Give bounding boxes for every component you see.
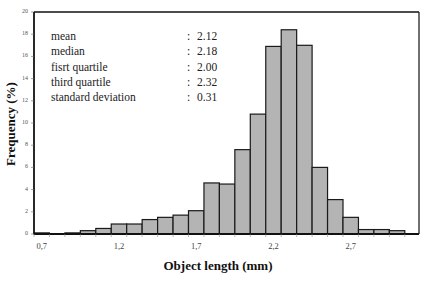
- y-tick-label: 12: [14, 97, 28, 103]
- x-axis-label: Object length (mm): [0, 258, 426, 274]
- histogram-bar: [312, 167, 327, 234]
- histogram-bar: [343, 217, 358, 234]
- y-tick-label: 2: [14, 208, 28, 214]
- histogram-bar: [173, 215, 188, 234]
- histogram-bar: [204, 183, 219, 234]
- y-tick-label: 18: [14, 30, 28, 36]
- histogram-bar: [158, 217, 173, 234]
- stat-mean: mean:2.12: [51, 29, 217, 44]
- histogram-bar: [219, 184, 234, 234]
- x-tick-label: 2,7: [336, 241, 366, 251]
- x-tick-label: 0,7: [27, 241, 57, 251]
- histogram-bar: [328, 200, 343, 234]
- histogram-bar: [266, 46, 281, 234]
- y-tick-label: 10: [14, 119, 28, 125]
- statistics-box: mean:2.12 median:2.18 fisrt quartile:2.0…: [51, 29, 217, 105]
- y-tick-label: 14: [14, 75, 28, 81]
- histogram-bar: [111, 224, 126, 234]
- stat-standard-deviation: standard deviation:0.31: [51, 90, 217, 105]
- y-tick-label: 8: [14, 141, 28, 147]
- x-tick-label: 1,2: [104, 241, 134, 251]
- y-tick-label: 20: [14, 8, 28, 14]
- histogram-bar: [142, 220, 157, 234]
- histogram-bar: [297, 45, 312, 234]
- histogram-bar: [127, 224, 142, 234]
- histogram-bar: [235, 150, 250, 234]
- histogram-bar: [189, 211, 204, 234]
- y-tick-label: 16: [14, 52, 28, 58]
- y-tick-label: 6: [14, 163, 28, 169]
- y-tick-label: 0: [14, 230, 28, 236]
- x-tick-label: 2,2: [258, 241, 288, 251]
- stat-median: median:2.18: [51, 44, 217, 59]
- y-tick-label: 4: [14, 186, 28, 192]
- histogram-bar: [281, 30, 296, 234]
- stat-first-quartile: fisrt quartile:2.00: [51, 60, 217, 75]
- x-tick-label: 1,7: [181, 241, 211, 251]
- stat-third-quartile: third quartile:2.32: [51, 75, 217, 90]
- histogram-bar: [250, 114, 265, 234]
